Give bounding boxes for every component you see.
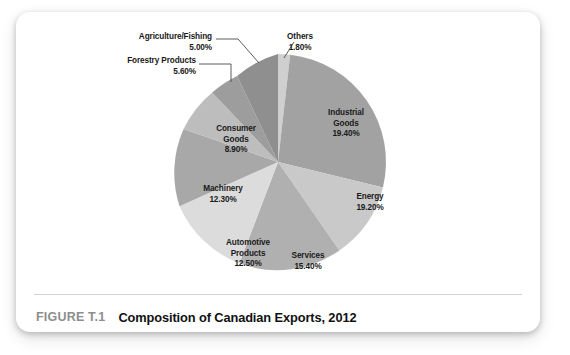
figure-title: Composition of Canadian Exports, 2012 [118,310,356,325]
slice-label-value: 1.80% [272,43,328,54]
slice-label-value: 5.00% [88,43,212,54]
slice-label-machinery: Machinery 12.30% [184,184,262,205]
slice-label-others: Others 1.80% [272,32,328,53]
figure-card: Industrial Goods 19.40% Energy 19.20% Se… [16,12,540,332]
slice-label-name-line2: Goods [196,135,276,146]
slice-label-name-line1: Consumer [196,124,276,135]
leader-line-agriculture-fishing [216,39,259,63]
slice-label-name-line1: Energy [332,192,408,203]
figure-caption: FIGURE T.1 Composition of Canadian Expor… [36,305,526,329]
slice-label-value: 8.90% [196,145,276,156]
caption-divider [34,294,522,295]
slice-label-name-line1: Agriculture/Fishing [88,32,212,43]
leader-line-forestry-products [199,64,231,82]
slice-label-industrial-goods: Industrial Goods 19.40% [304,108,388,140]
slice-label-automotive-products: Automotive Products 12.50% [208,238,288,270]
slice-label-value: 5.60% [76,67,196,78]
slice-label-name-line1: Automotive [208,238,288,249]
slice-label-name-line1: Machinery [184,184,262,195]
slice-label-value: 12.30% [184,195,262,206]
pie-chart: Industrial Goods 19.40% Energy 19.20% Se… [16,12,540,284]
slice-label-value: 19.20% [332,203,408,214]
slice-label-energy: Energy 19.20% [332,192,408,213]
slice-label-name-line2: Products [208,249,288,260]
slice-label-name-line2: Goods [304,119,388,130]
slice-label-forestry-products: Forestry Products 5.60% [76,56,196,77]
slice-label-value: 19.40% [304,129,388,140]
figure-number: FIGURE T.1 [36,310,105,324]
slice-label-name-line1: Industrial [304,108,388,119]
slice-label-value: 12.50% [208,259,288,270]
slice-label-name-line1: Others [272,32,328,43]
slice-label-name-line1: Forestry Products [76,56,196,67]
slice-label-consumer-goods: Consumer Goods 8.90% [196,124,276,156]
slice-label-agriculture-fishing: Agriculture/Fishing 5.00% [88,32,212,53]
